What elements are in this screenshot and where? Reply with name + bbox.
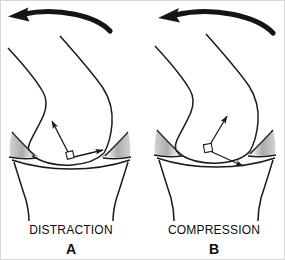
curved-motion-arrow-b: [158, 8, 273, 33]
medial-meniscus-b: [247, 130, 276, 157]
medial-meniscus-a: [102, 132, 131, 159]
right-angle-marker-a: [66, 151, 74, 159]
knee-diagram-b: [143, 0, 285, 222]
curved-motion-arrow-a: [8, 8, 110, 32]
knee-diagram-a: [0, 0, 142, 222]
tibia-outline-a: [12, 160, 130, 221]
panel-distraction: DISTRACTION A: [0, 0, 142, 260]
right-angle-marker-b: [203, 143, 212, 152]
panel-a-title: DISTRACTION: [0, 223, 142, 237]
panel-b-letter: B: [143, 241, 285, 257]
tibia-outline-b: [157, 158, 275, 221]
panel-b-title: COMPRESSION: [143, 223, 285, 237]
force-arrows-a: [52, 121, 103, 159]
panel-compression: COMPRESSION B: [143, 0, 285, 260]
force-arrows-b: [203, 116, 243, 166]
knee-biomechanics-figure: DISTRACTION A: [0, 0, 285, 260]
lateral-meniscus-b: [154, 130, 183, 157]
panel-a-letter: A: [0, 241, 142, 257]
